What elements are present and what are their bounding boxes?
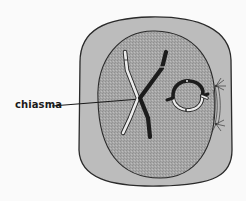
chiasma-label: chiasma bbox=[15, 99, 62, 110]
meiosis-diagram: chiasma bbox=[0, 0, 246, 201]
